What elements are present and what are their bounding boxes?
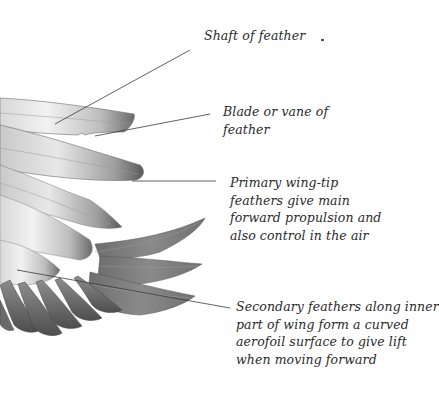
feather-top (0, 98, 134, 135)
label-secondary-line-3: aerofoil surface to give lift (236, 333, 439, 351)
label-primary-line-1: Primary wing-tip (230, 174, 381, 192)
label-secondary-line-2: part of wing form a curved (236, 316, 439, 334)
label-primary-line-2: feathers give main (230, 192, 381, 210)
label-blade: Blade or vane of feather (223, 103, 328, 138)
speck-mark (321, 39, 324, 41)
label-secondary: Secondary feathers along inner part of w… (236, 298, 439, 368)
label-blade-line-2: feather (223, 121, 328, 139)
label-primary-line-3: forward propulsion and (230, 209, 381, 227)
label-primary-line-4: also control in the air (230, 227, 381, 245)
label-secondary-line-1: Secondary feathers along inner (236, 298, 439, 316)
label-shaft: Shaft of feather (204, 27, 305, 45)
label-shaft-line-1: Shaft of feather (204, 27, 305, 45)
label-secondary-line-4: when moving forward (236, 351, 439, 369)
label-primary: Primary wing-tip feathers give main forw… (230, 174, 381, 244)
label-blade-line-1: Blade or vane of (223, 103, 328, 121)
